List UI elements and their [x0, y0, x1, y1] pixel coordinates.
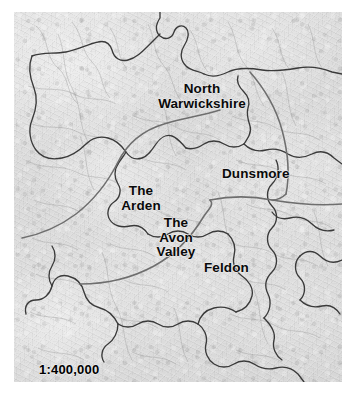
region-boundary-avon-north: [210, 197, 342, 205]
region-label-the-arden: The Arden: [112, 184, 170, 213]
region-label-the-avon-valley: The Avon Valley: [146, 216, 206, 260]
map-scale-label: 1:400,000: [39, 362, 99, 377]
administrative-boundaries: [25, 12, 342, 382]
region-label-dunsmore: Dunsmore: [222, 167, 306, 182]
map-canvas[interactable]: North Warwickshire Dunsmore The Arden Th…: [14, 12, 342, 382]
region-boundary-feldon-link: [272, 194, 286, 200]
map-vector-overlay: [14, 12, 342, 382]
region-label-feldon: Feldon: [204, 261, 266, 276]
map-figure: North Warwickshire Dunsmore The Arden Th…: [0, 0, 351, 396]
region-label-north-warwickshire: North Warwickshire: [152, 82, 252, 111]
